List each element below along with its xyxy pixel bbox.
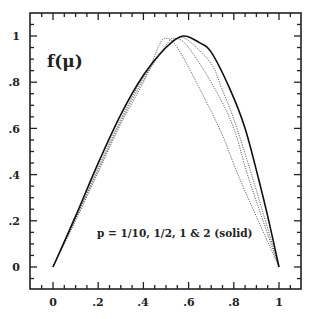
y-tick-label: .8: [9, 76, 21, 89]
x-tick-label: 1: [275, 296, 283, 309]
x-tick-label: .8: [228, 296, 240, 309]
line-chart: 0 .2 .4 .6 .8 1 0 .2 .4 .6 .8 1 f(μ) p =…: [0, 0, 313, 319]
y-tick-label: .4: [9, 169, 21, 182]
x-tick-label: .4: [137, 296, 149, 309]
y-tick-label: .2: [9, 215, 20, 228]
x-tick-label: 0: [49, 296, 57, 309]
y-tick-label: 0: [12, 261, 20, 274]
y-tick-label: 1: [12, 30, 20, 43]
legend-annotation: p = 1/10, 1/2, 1 & 2 (solid): [97, 227, 253, 239]
y-axis-label: f(μ): [47, 51, 83, 71]
x-tick-label: .2: [92, 296, 103, 309]
x-tick-label: .6: [183, 296, 195, 309]
y-tick-label: .6: [9, 123, 21, 136]
